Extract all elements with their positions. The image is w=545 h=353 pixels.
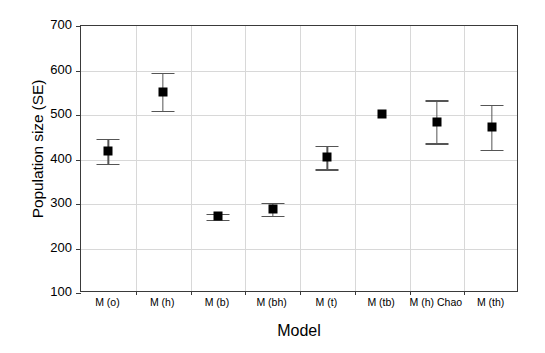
x-tick-mark xyxy=(464,291,465,295)
x-gridline xyxy=(245,26,246,291)
marker-square xyxy=(487,123,496,132)
plot-area xyxy=(80,25,518,292)
y-tick-mark xyxy=(76,26,81,27)
x-tick-mark xyxy=(245,291,246,295)
y-tick-label: 300 xyxy=(24,195,72,210)
error-cap-upper xyxy=(261,203,284,204)
x-gridline xyxy=(300,26,301,291)
marker-square xyxy=(432,118,441,127)
error-cap-upper xyxy=(152,73,175,74)
y-tick-label: 400 xyxy=(24,151,72,166)
y-tick-label: 200 xyxy=(24,240,72,255)
x-axis-title: Model xyxy=(80,322,518,340)
x-gridline xyxy=(410,26,411,291)
x-gridline xyxy=(191,26,192,291)
data-point-1 xyxy=(148,26,178,293)
marker-square xyxy=(378,109,387,118)
x-tick-mark xyxy=(410,291,411,295)
x-tick-label-3: M (bh) xyxy=(256,296,286,308)
data-point-5 xyxy=(367,26,397,293)
data-point-0 xyxy=(93,26,123,293)
y-tick-mark xyxy=(76,249,81,250)
y-tick-mark xyxy=(76,204,81,205)
x-tick-mark xyxy=(136,291,137,295)
y-tick-label: 700 xyxy=(24,17,72,32)
marker-square xyxy=(268,205,277,214)
y-tick-label: 500 xyxy=(24,106,72,121)
y-tick-mark xyxy=(76,71,81,72)
marker-square xyxy=(323,153,332,162)
x-tick-label-1: M (h) xyxy=(150,296,175,308)
x-tick-mark xyxy=(355,291,356,295)
error-cap-lower xyxy=(480,150,503,151)
y-tick-mark xyxy=(76,115,81,116)
figure-canvas: Population size (SE) Model 1002003004005… xyxy=(0,0,545,353)
data-point-3 xyxy=(258,26,288,293)
error-cap-lower xyxy=(425,143,448,144)
x-tick-label-7: M (th) xyxy=(477,296,504,308)
error-cap-lower xyxy=(261,216,284,217)
data-point-7 xyxy=(477,26,507,293)
x-tick-label-4: M (t) xyxy=(316,296,338,308)
marker-square xyxy=(159,87,168,96)
error-cap-upper xyxy=(316,146,339,147)
error-cap-upper xyxy=(425,100,448,101)
y-tick-label: 100 xyxy=(24,284,72,299)
x-gridline xyxy=(136,26,137,291)
marker-square xyxy=(213,212,222,221)
x-gridline xyxy=(355,26,356,291)
data-point-6 xyxy=(422,26,452,293)
error-cap-upper xyxy=(97,139,120,140)
error-cap-upper xyxy=(480,105,503,106)
x-gridline xyxy=(464,26,465,291)
y-tick-mark xyxy=(76,160,81,161)
data-point-4 xyxy=(312,26,342,293)
y-tick-mark xyxy=(76,293,81,294)
x-tick-label-2: M (b) xyxy=(205,296,230,308)
marker-square xyxy=(104,146,113,155)
error-cap-lower xyxy=(316,169,339,170)
x-tick-mark xyxy=(300,291,301,295)
x-tick-label-6: M (h) Chao xyxy=(410,296,463,308)
error-cap-lower xyxy=(152,111,175,112)
x-tick-label-5: M (tb) xyxy=(367,296,394,308)
error-cap-lower xyxy=(97,164,120,165)
data-point-2 xyxy=(203,26,233,293)
y-tick-label: 600 xyxy=(24,62,72,77)
x-tick-mark xyxy=(191,291,192,295)
x-tick-label-0: M (o) xyxy=(95,296,120,308)
